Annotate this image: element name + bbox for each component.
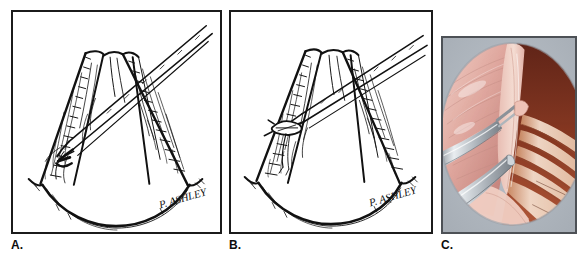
panel-a-frame: P. ASHLEY [11, 10, 222, 234]
panel-b-label: B. [229, 239, 241, 251]
panel-c [441, 36, 577, 234]
panel-b-frame: P. ASHLEY [229, 10, 433, 234]
panel-a: P. ASHLEY [11, 10, 222, 234]
panel-a-signature: P. ASHLEY [156, 185, 208, 211]
panel-c-frame [441, 36, 577, 234]
panel-c-illustration [443, 38, 575, 232]
figure-root: P. ASHLEY A. [0, 0, 578, 257]
panel-b-illustration: P. ASHLEY [231, 12, 431, 232]
panel-b-signature: P. ASHLEY [367, 183, 419, 209]
panel-a-label: A. [11, 239, 23, 251]
panel-c-label: C. [441, 239, 453, 251]
panel-b: P. ASHLEY [229, 10, 433, 234]
panel-a-illustration: P. ASHLEY [13, 12, 220, 232]
